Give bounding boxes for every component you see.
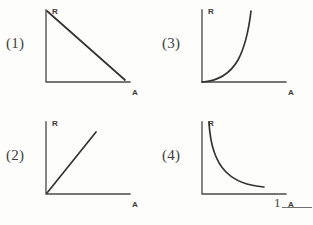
data-curve-1 — [47, 11, 125, 80]
x-axis-label-3: A — [288, 89, 294, 97]
graph-index-label-4: (4) — [162, 148, 180, 163]
axes-2 — [46, 122, 130, 194]
x-axis-label-2: A — [132, 201, 138, 209]
data-curve-4 — [209, 122, 264, 187]
y-axis-label-4: R — [208, 120, 214, 128]
y-axis-label-3: R — [208, 8, 214, 16]
plot-area-3: R A — [188, 4, 300, 104]
graph-panel-1: (1) R A — [0, 0, 156, 112]
plot-svg-3 — [188, 4, 300, 104]
y-axis-label-1: R — [52, 8, 58, 16]
y-axis-label-2: R — [52, 120, 58, 128]
data-curve-2 — [47, 132, 96, 193]
figure-page: (1) R A (3) R A (2) — [0, 0, 312, 225]
plot-area-1: R A — [32, 4, 144, 104]
answer-write-in-rule[interactable] — [282, 207, 313, 208]
plot-svg-1 — [32, 4, 144, 104]
graph-panel-2: (2) R A — [0, 112, 156, 224]
graph-index-label-2: (2) — [6, 148, 24, 163]
graph-index-label-3: (3) — [162, 36, 180, 51]
graph-panel-3: (3) R A — [156, 0, 312, 112]
plot-area-2: R A — [32, 116, 144, 216]
plot-svg-2 — [32, 116, 144, 216]
answer-blank[interactable]: 1 — [274, 196, 312, 209]
data-curve-3 — [202, 11, 251, 82]
graph-index-label-1: (1) — [6, 36, 24, 51]
answer-number: 1 — [274, 196, 281, 209]
x-axis-label-1: A — [132, 89, 138, 97]
